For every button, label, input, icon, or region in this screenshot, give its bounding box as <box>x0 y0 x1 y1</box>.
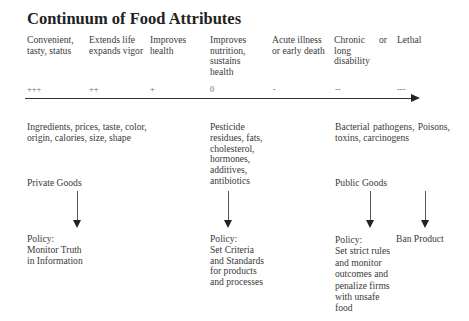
header-lethal: Lethal <box>397 35 422 46</box>
scale-plus1: + <box>150 84 155 94</box>
header-convenient: Convenient, tasty, status <box>27 35 83 56</box>
public-goods-label: Public Goods <box>335 178 387 189</box>
header-extends-life: Extends life expands vigor <box>89 35 145 56</box>
policy-public: Policy: Set strict rules and monitor out… <box>335 234 393 314</box>
scale-minus3: --- <box>397 84 406 94</box>
scale-minus2: -- <box>335 84 341 94</box>
scale-plus2: ++ <box>89 84 99 94</box>
private-arrow-line <box>77 191 78 221</box>
scale-zero: 0 <box>210 84 214 94</box>
middle-attributes: Pesticide residues, fats, cholesterol, h… <box>210 122 265 187</box>
private-goods-label: Private Goods <box>27 178 82 189</box>
scale-plus3: +++ <box>27 84 41 94</box>
arrow-down-icon <box>366 220 374 228</box>
arrow-down-icon <box>73 220 81 228</box>
ban-arrow-line <box>425 191 426 221</box>
policy-middle: Policy: Set Criteria and Standards for p… <box>210 234 268 288</box>
policy-public-text: Set strict rules and monitor outcomes an… <box>335 245 393 313</box>
continuum-axis-line <box>25 98 413 99</box>
policy-ban: Ban Product <box>396 234 444 245</box>
header-improves-health: Improves health <box>150 35 200 56</box>
public-attributes: Bacterial pathogens, Poisons, toxins, ca… <box>335 122 450 144</box>
scale-minus1: - <box>273 84 276 94</box>
private-attributes: Ingredients, prices, taste, color, origi… <box>27 122 149 144</box>
arrow-right-icon <box>411 94 420 102</box>
policy-public-label: Policy: <box>335 234 393 245</box>
policy-private-text: Monitor Truth in Information <box>27 245 87 267</box>
header-acute-illness: Acute illness or early death <box>272 35 332 56</box>
arrow-down-icon <box>421 220 429 228</box>
policy-middle-text: Set Criteria and Standards for products … <box>210 245 268 288</box>
header-or: or <box>379 35 387 46</box>
header-chronic: Chronic long disability <box>334 35 368 67</box>
diagram-title: Continuum of Food Attributes <box>27 9 241 29</box>
policy-private: Policy: Monitor Truth in Information <box>27 234 87 266</box>
public-arrow-line <box>370 191 371 221</box>
middle-arrow-line <box>228 191 229 221</box>
header-improves-nutrition: Improves nutrition, sustains health <box>210 35 260 77</box>
arrow-down-icon <box>224 220 232 228</box>
